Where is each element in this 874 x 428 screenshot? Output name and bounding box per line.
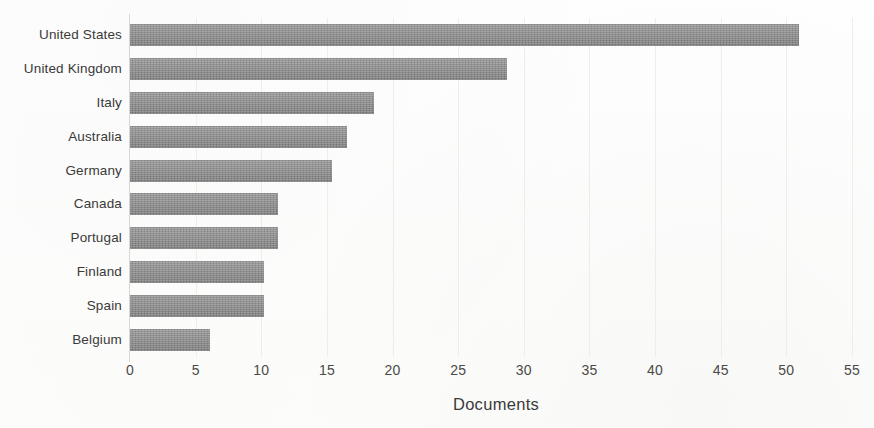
category-label: Belgium xyxy=(2,332,122,347)
value-tick-label: 5 xyxy=(192,362,200,378)
bar-row xyxy=(130,188,852,222)
bar xyxy=(130,261,264,283)
bar-chart-figure: United StatesUnited KingdomItalyAustrali… xyxy=(0,0,874,428)
bar-row xyxy=(130,154,852,188)
bar-row xyxy=(130,255,852,289)
bar xyxy=(130,160,332,182)
bar-row xyxy=(130,323,852,357)
value-tick-label: 30 xyxy=(516,362,532,378)
bar-row xyxy=(130,221,852,255)
bar-row xyxy=(130,120,852,154)
value-tick-label: 45 xyxy=(713,362,729,378)
value-tick-label: 20 xyxy=(385,362,401,378)
plot-area xyxy=(130,18,852,357)
category-label: United Kingdom xyxy=(2,61,122,76)
category-label: Portugal xyxy=(2,230,122,245)
category-label: Spain xyxy=(2,298,122,313)
bar xyxy=(130,58,507,80)
bar-row xyxy=(130,52,852,86)
bar xyxy=(130,92,374,114)
bar-row xyxy=(130,18,852,52)
value-tick-label: 50 xyxy=(778,362,794,378)
bar-row xyxy=(130,289,852,323)
bar xyxy=(130,329,210,351)
value-tick-label: 35 xyxy=(581,362,597,378)
category-label: Canada xyxy=(2,196,122,211)
bar xyxy=(130,227,278,249)
gridline xyxy=(852,18,853,357)
category-axis-labels: United StatesUnited KingdomItalyAustrali… xyxy=(0,18,122,357)
value-axis-title: Documents xyxy=(0,395,874,414)
value-tick-label: 0 xyxy=(126,362,134,378)
category-label: Germany xyxy=(2,163,122,178)
value-tick-label: 40 xyxy=(647,362,663,378)
value-axis-tick-labels: 0510152025303540455055 xyxy=(130,362,852,386)
category-label: Australia xyxy=(2,129,122,144)
bar xyxy=(130,295,264,317)
bar xyxy=(130,24,799,46)
bar xyxy=(130,126,347,148)
value-tick-label: 10 xyxy=(253,362,269,378)
bar xyxy=(130,193,278,215)
value-axis-title-text: Documents xyxy=(453,395,539,414)
category-label: Finland xyxy=(2,264,122,279)
value-tick-label: 25 xyxy=(450,362,466,378)
category-label: United States xyxy=(2,27,122,42)
value-tick-label: 55 xyxy=(844,362,860,378)
bar-row xyxy=(130,86,852,120)
category-label: Italy xyxy=(2,95,122,110)
value-tick-label: 15 xyxy=(319,362,335,378)
